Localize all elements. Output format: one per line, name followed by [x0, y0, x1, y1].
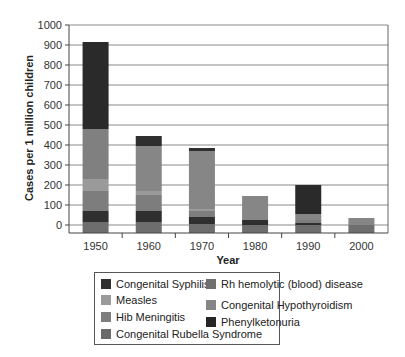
y-tick-label: 500 — [44, 119, 62, 131]
x-tick-label: 1970 — [190, 240, 214, 252]
bar-segment — [348, 218, 374, 225]
y-tick-label: 1000 — [38, 19, 62, 31]
legend-item: Hib Meningitis — [101, 311, 185, 323]
legend-swatch — [206, 317, 216, 327]
legend-item: Congenital Hypothyroidism — [206, 299, 352, 311]
bar-segment — [136, 222, 162, 233]
bar-segment — [348, 225, 374, 233]
legend-label: Congenital Rubella Syndrome — [116, 328, 262, 340]
legend-item: Congenital Rubella Syndrome — [101, 328, 262, 340]
legend-label: Rh hemolytic (blood) disease — [221, 278, 363, 290]
bar-segment — [83, 211, 109, 222]
legend-label: Hib Meningitis — [116, 311, 185, 323]
legend-label: Congenital Syphilis — [116, 278, 210, 290]
legend: Congenital SyphilisMeaslesHib Meningitis… — [94, 272, 280, 345]
bar-segment — [295, 214, 321, 220]
legend-label: Phenylketonuria — [221, 316, 300, 328]
bar-segment — [189, 148, 215, 151]
legend-swatch — [206, 279, 216, 289]
legend-label: Congenital Hypothyroidism — [221, 299, 352, 311]
y-tick-label: 800 — [44, 59, 62, 71]
bar-segment — [242, 196, 268, 220]
bar-segment — [189, 151, 215, 209]
legend-item: Rh hemolytic (blood) disease — [206, 278, 363, 290]
bar-segment — [83, 222, 109, 233]
x-tick-label: 1960 — [137, 240, 161, 252]
bar-segment — [136, 136, 162, 146]
bar-segment — [136, 191, 162, 195]
bar-segment — [295, 185, 321, 214]
gridlines — [69, 25, 388, 225]
x-tick-label: 1980 — [243, 240, 267, 252]
x-tick-label: 2000 — [349, 240, 373, 252]
bar-segment — [83, 42, 109, 129]
x-tick-label: 1950 — [83, 240, 107, 252]
bar-segment — [189, 211, 215, 217]
y-tick-label: 200 — [44, 179, 62, 191]
bar-segment — [242, 220, 268, 225]
bar-segment — [189, 224, 215, 233]
bar-segment — [189, 209, 215, 211]
bar-segment — [83, 191, 109, 211]
legend-swatch — [101, 329, 111, 339]
legend-swatch — [206, 300, 216, 310]
bar-segment — [295, 223, 321, 225]
bar-segment — [189, 217, 215, 224]
y-axis-title: Cases per 1 million children — [23, 55, 35, 201]
y-tick-label: 600 — [44, 99, 62, 111]
bar-segment — [295, 225, 321, 233]
x-tick-label: 1990 — [296, 240, 320, 252]
y-tick-label: 400 — [44, 139, 62, 151]
y-tick-label: 900 — [44, 39, 62, 51]
bar-segment — [136, 195, 162, 211]
bar-segment — [136, 211, 162, 222]
bar-segment — [295, 220, 321, 223]
legend-swatch — [101, 312, 111, 322]
y-tick-label: 0 — [56, 219, 62, 231]
bar-segment — [242, 225, 268, 233]
y-tick-label: 100 — [44, 199, 62, 211]
bar-segment — [83, 129, 109, 179]
legend-item: Congenital Syphilis — [101, 278, 210, 290]
bar-segment — [83, 179, 109, 191]
legend-label: Measles — [116, 294, 157, 306]
legend-swatch — [101, 295, 111, 305]
y-tick-label: 300 — [44, 159, 62, 171]
legend-item: Measles — [101, 294, 157, 306]
legend-item: Phenylketonuria — [206, 316, 300, 328]
x-axis-title: Year — [216, 254, 240, 266]
bars — [83, 42, 375, 233]
legend-swatch — [101, 279, 111, 289]
bar-segment — [136, 146, 162, 191]
y-tick-label: 700 — [44, 79, 62, 91]
